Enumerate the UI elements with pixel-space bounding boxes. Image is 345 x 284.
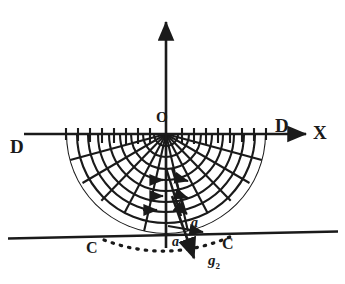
flow-net-figure: D D X O C C a a g2 [0,0,345,284]
label-origin: O [156,110,168,125]
label-boundary-right: D [275,116,289,135]
label-base-left: C [86,240,98,256]
label-gravity-vector: g2 [208,253,220,271]
label-boundary-left: D [10,137,24,156]
gravity-symbol: g [208,252,216,268]
dotted-arc [104,236,232,251]
label-vector-upper: a [191,216,198,230]
label-base-right: C [222,236,234,252]
label-vector-lower: a [172,235,179,249]
label-axis-x: X [313,123,327,142]
gravity-subscript: 2 [216,261,221,271]
